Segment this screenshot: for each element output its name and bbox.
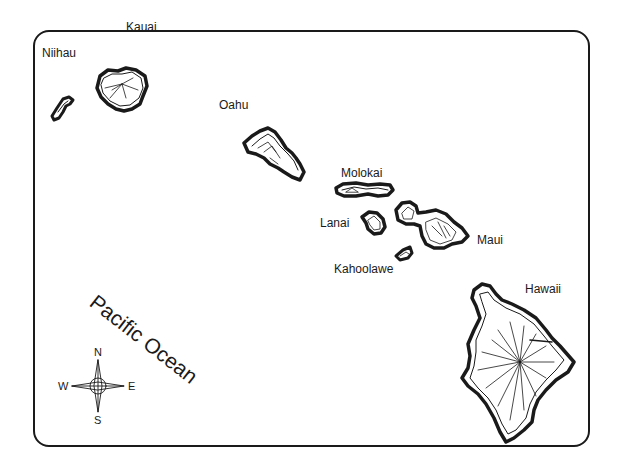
compass-north: N bbox=[94, 346, 102, 358]
compass-rose bbox=[72, 360, 124, 412]
island-map bbox=[0, 0, 626, 472]
label-maui: Maui bbox=[477, 233, 503, 247]
label-kauai: Kauai bbox=[126, 20, 157, 34]
compass-east: E bbox=[128, 380, 135, 392]
label-kahoolawe: Kahoolawe bbox=[334, 262, 393, 276]
island-maui[interactable] bbox=[396, 202, 468, 248]
island-kauai[interactable] bbox=[97, 68, 147, 111]
label-hawaii: Hawaii bbox=[525, 282, 561, 296]
island-kahoolawe[interactable] bbox=[396, 247, 412, 260]
compass-south: S bbox=[94, 414, 101, 426]
island-hawaii[interactable] bbox=[462, 284, 574, 442]
island-oahu[interactable] bbox=[244, 128, 304, 180]
compass-west: W bbox=[58, 380, 68, 392]
island-niihau[interactable] bbox=[52, 97, 73, 120]
label-lanai: Lanai bbox=[320, 216, 349, 230]
label-niihau: Niihau bbox=[42, 46, 76, 60]
island-lanai[interactable] bbox=[362, 212, 385, 234]
island-molokai[interactable] bbox=[336, 183, 393, 196]
label-oahu: Oahu bbox=[219, 98, 248, 112]
label-molokai: Molokai bbox=[341, 166, 382, 180]
